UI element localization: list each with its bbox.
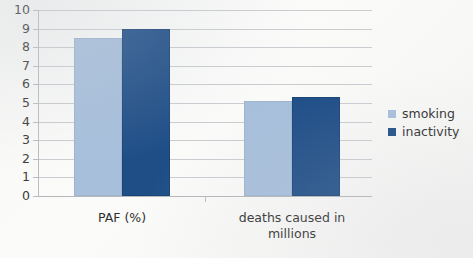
y-axis-tick-label: 7 bbox=[4, 60, 30, 73]
y-axis-tick-label: 5 bbox=[4, 97, 30, 110]
plot-area bbox=[38, 10, 372, 196]
x-axis-category-label-paf: PAF (%) bbox=[42, 210, 202, 226]
legend-item-inactivity[interactable]: inactivity bbox=[388, 123, 459, 141]
y-axis-tick-label: 4 bbox=[4, 116, 30, 129]
legend-label-inactivity: inactivity bbox=[402, 126, 459, 139]
bar-smoking-0[interactable] bbox=[74, 38, 122, 196]
legend-swatch-smoking-icon bbox=[388, 110, 396, 118]
x-axis-label-line: PAF (%) bbox=[42, 210, 202, 226]
y-axis-tick-label: 9 bbox=[4, 23, 30, 36]
x-axis-category-label-deaths: deaths caused inmillions bbox=[212, 210, 372, 242]
bar-inactivity-0[interactable] bbox=[122, 29, 170, 196]
y-axis-tick-label: 3 bbox=[4, 134, 30, 147]
x-axis-label-line: millions bbox=[212, 226, 372, 242]
y-axis-tick-label: 2 bbox=[4, 153, 30, 166]
y-axis-tick-label: 6 bbox=[4, 78, 30, 91]
y-axis-labels: 10 9 8 7 6 5 4 3 2 1 0 bbox=[0, 0, 30, 258]
bar-smoking-1[interactable] bbox=[244, 101, 292, 196]
category-separator-tick bbox=[205, 196, 206, 202]
bar-chart: 10 9 8 7 6 5 4 3 2 1 0 PAF (%) deaths ca… bbox=[0, 0, 473, 258]
legend-label-smoking: smoking bbox=[402, 108, 455, 121]
y-axis-tick-label: 0 bbox=[4, 190, 30, 203]
legend-item-smoking[interactable]: smoking bbox=[388, 105, 459, 123]
x-axis-label-line: deaths caused in bbox=[212, 210, 372, 226]
bar-inactivity-1[interactable] bbox=[292, 97, 340, 196]
chart-legend: smoking inactivity bbox=[388, 105, 459, 141]
y-axis-tick-label: 10 bbox=[4, 4, 30, 17]
legend-swatch-inactivity-icon bbox=[388, 128, 396, 136]
y-axis-tick-label: 8 bbox=[4, 41, 30, 54]
y-axis-tick-label: 1 bbox=[4, 171, 30, 184]
y-axis-tick bbox=[33, 196, 38, 197]
